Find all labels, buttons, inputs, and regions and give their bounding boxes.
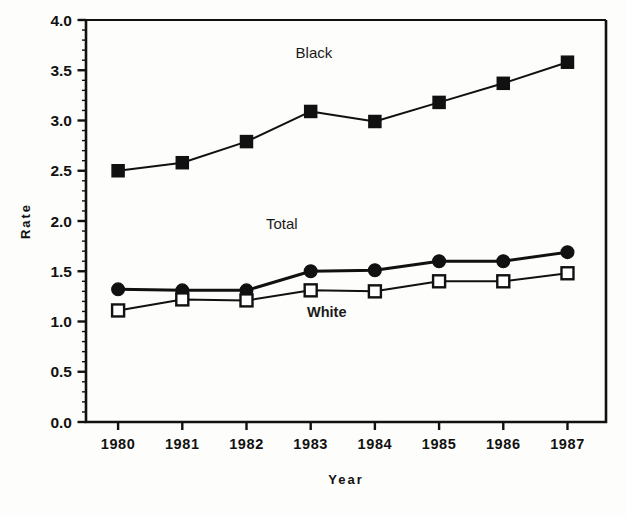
data-point-black-1984 (369, 116, 381, 128)
y-tick-label-2.0: 2.0 (50, 213, 72, 230)
x-tick-label-1987: 1987 (550, 436, 585, 452)
data-point-white-1981 (176, 293, 188, 305)
x-tick-label-1985: 1985 (422, 436, 457, 452)
data-point-total-1983 (304, 265, 317, 278)
y-tick-label-3.5: 3.5 (50, 62, 72, 79)
data-point-black-1981 (176, 157, 188, 169)
series-label-white: White (307, 304, 346, 320)
data-point-total-1980 (112, 283, 125, 296)
y-axis-title: Rate (18, 203, 33, 239)
data-point-black-1980 (112, 165, 124, 177)
x-tick-label-1982: 1982 (229, 436, 264, 452)
data-point-total-1986 (497, 255, 510, 268)
series-label-total: Total (266, 215, 298, 232)
axes-frame (86, 20, 606, 422)
data-point-total-1985 (433, 255, 446, 268)
data-point-white-1985 (433, 275, 445, 287)
data-point-black-1983 (305, 105, 317, 117)
y-tick-label-0.5: 0.5 (50, 363, 72, 380)
x-axis-title: Year (328, 472, 363, 487)
y-tick-label-3.0: 3.0 (50, 112, 72, 129)
line-chart: 0.00.51.01.52.02.53.03.54.01980198119821… (0, 0, 627, 515)
data-point-total-1984 (368, 264, 381, 277)
data-point-white-1984 (369, 285, 381, 297)
x-tick-label-1984: 1984 (358, 436, 393, 452)
data-point-black-1987 (561, 56, 573, 68)
x-tick-label-1981: 1981 (165, 436, 200, 452)
y-tick-label-0.0: 0.0 (50, 414, 72, 431)
data-point-total-1987 (561, 246, 574, 259)
data-point-black-1986 (497, 77, 509, 89)
x-tick-label-1980: 1980 (101, 436, 136, 452)
figure-canvas: 0.00.51.01.52.02.53.03.54.01980198119821… (0, 0, 627, 515)
data-point-white-1983 (305, 284, 317, 296)
data-point-black-1982 (240, 136, 252, 148)
data-point-white-1980 (112, 304, 124, 316)
y-tick-label-1.0: 1.0 (50, 313, 72, 330)
y-tick-label-4.0: 4.0 (50, 12, 72, 29)
y-tick-label-1.5: 1.5 (50, 263, 72, 280)
data-point-white-1982 (240, 294, 252, 306)
data-point-black-1985 (433, 96, 445, 108)
series-label-black: Black (296, 44, 333, 61)
data-point-white-1986 (497, 275, 509, 287)
x-tick-label-1986: 1986 (486, 436, 521, 452)
y-tick-label-2.5: 2.5 (50, 162, 72, 179)
x-tick-label-1983: 1983 (293, 436, 328, 452)
data-point-white-1987 (561, 267, 573, 279)
